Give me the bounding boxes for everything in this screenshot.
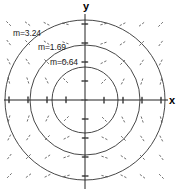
x-axis-label: x	[169, 95, 175, 106]
level-curve-label-middle: m=1.69	[38, 43, 66, 52]
level-curve-label-outer: m=3.24	[13, 29, 41, 38]
axes-layer	[4, 14, 168, 189]
chart-canvas: y x m=3.24 m=1.69 m=0.64	[0, 0, 179, 192]
y-axis-label: y	[83, 1, 89, 12]
level-curve-label-inner: m=0.64	[50, 58, 78, 67]
